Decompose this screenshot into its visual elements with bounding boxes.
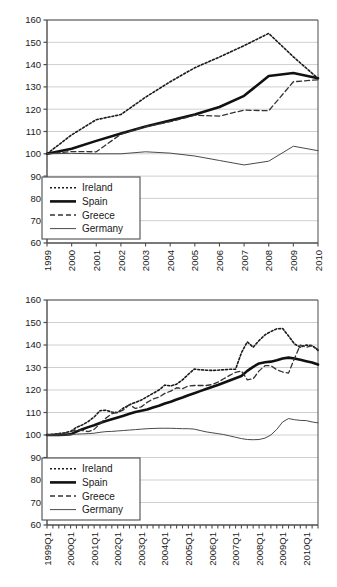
y-tick-label: 160: [25, 14, 41, 25]
x-tick-label: 2003Q1: [136, 532, 147, 566]
y-tick-label: 70: [30, 215, 41, 226]
x-tick-label: 2004Q1: [159, 532, 170, 566]
x-tick-label: 2002Q1: [112, 532, 123, 566]
y-tick-label: 160: [25, 294, 41, 305]
quarterly-chart-canvas: 607080901001101201301401501601999Q12000Q…: [0, 290, 337, 587]
x-tick-label: 2007: [239, 250, 250, 271]
y-tick-label: 110: [26, 126, 41, 137]
legend-label-ireland: Ireland: [82, 463, 113, 474]
y-tick-label: 120: [25, 384, 41, 395]
legend-label-greece: Greece: [82, 210, 115, 221]
y-tick-label: 100: [25, 429, 41, 440]
x-tick-label: 2000Q1: [65, 532, 76, 566]
series-line-germany: [47, 146, 318, 165]
legend: IrelandSpainGreeceGermany: [42, 177, 140, 239]
x-tick-label: 2007Q1: [230, 532, 241, 566]
y-tick-label: 140: [25, 339, 41, 350]
legend-label-germany: Germany: [82, 223, 123, 234]
x-tick-label: 1999Q1: [42, 532, 53, 566]
y-tick-label: 80: [30, 474, 41, 485]
legend-label-spain: Spain: [82, 477, 108, 488]
y-tick-label: 150: [25, 317, 41, 328]
y-tick-label: 110: [26, 407, 41, 418]
x-tick-label: 2010: [313, 250, 324, 271]
legend: IrelandSpainGreeceGermany: [42, 458, 140, 520]
y-tick-label: 80: [30, 193, 41, 204]
y-tick-label: 90: [30, 171, 41, 182]
x-axis-ticks: 1999200020012002200320042005200620072008…: [42, 243, 324, 271]
y-tick-label: 70: [30, 497, 41, 508]
annual-index-chart: 6070809010011012013014015016019992000200…: [0, 0, 337, 290]
legend-label-ireland: Ireland: [82, 182, 113, 193]
x-tick-label: 2006Q1: [207, 532, 218, 566]
series-group: [47, 33, 318, 165]
x-tick-label: 2005: [189, 250, 200, 271]
legend-label-greece: Greece: [82, 491, 115, 502]
legend-label-spain: Spain: [82, 196, 108, 207]
x-axis-ticks: 1999Q12000Q12001Q12002Q12003Q12004Q12005…: [42, 525, 318, 566]
x-tick-label: 2001Q1: [89, 532, 100, 566]
series-line-spain: [47, 73, 318, 154]
x-tick-label: 2000: [66, 250, 77, 271]
x-tick-label: 2008Q1: [254, 532, 265, 566]
y-tick-label: 140: [25, 59, 41, 70]
y-tick-label: 60: [30, 237, 41, 248]
x-tick-label: 1999: [42, 250, 53, 271]
y-tick-label: 130: [25, 81, 41, 92]
y-tick-label: 90: [30, 452, 41, 463]
x-tick-label: 2008: [263, 250, 274, 271]
x-tick-label: 2006: [214, 250, 225, 271]
legend-label-germany: Germany: [82, 504, 123, 515]
series-line-spain: [47, 358, 318, 435]
y-tick-label: 100: [25, 148, 41, 159]
quarterly-index-chart: 607080901001101201301401501601999Q12000Q…: [0, 290, 337, 587]
y-tick-label: 150: [25, 37, 41, 48]
x-tick-label: 2004: [165, 250, 176, 271]
x-tick-label: 2005Q1: [183, 532, 194, 566]
x-tick-label: 2003: [140, 250, 151, 271]
x-tick-label: 2002: [116, 250, 127, 271]
x-tick-label: 2010Q1: [301, 532, 312, 566]
y-tick-label: 60: [30, 519, 41, 530]
x-tick-label: 2009Q1: [277, 532, 288, 566]
y-tick-label: 130: [25, 362, 41, 373]
x-tick-label: 2009: [288, 250, 299, 271]
annual-chart-canvas: 6070809010011012013014015016019992000200…: [0, 0, 337, 290]
x-tick-label: 2001: [91, 250, 102, 271]
series-line-ireland: [47, 33, 318, 153]
y-tick-label: 120: [25, 104, 41, 115]
